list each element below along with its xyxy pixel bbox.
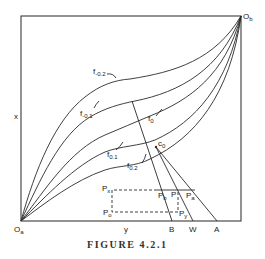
label-A: A — [214, 225, 220, 234]
origin-Oa: Oa — [14, 225, 24, 235]
label-P: P — [171, 190, 176, 199]
leader-f-minus-0.1 — [94, 101, 99, 108]
figure-caption: FIGURE 4.2.1 — [87, 239, 168, 250]
leader-f-0.1 — [116, 142, 123, 150]
line-to-W — [156, 147, 193, 221]
label-f-0.1: f0.1 — [107, 150, 118, 160]
axis-label-x: x — [14, 112, 18, 121]
label-f-minus-0.1: f-0.1 — [80, 109, 93, 119]
origin-Ob: Ob — [243, 12, 253, 22]
edgeworth-box-diagram: f-0.2 f-0.1 f0 f0.1 f0.2 c0 Px Po Pb P P… — [0, 0, 265, 259]
label-Pb: Pb — [158, 191, 167, 201]
label-f-minus-0.2: f-0.2 — [93, 67, 106, 77]
c0-point — [155, 146, 157, 148]
label-Px: Px — [102, 184, 110, 194]
label-Po: Po — [103, 208, 112, 218]
label-f-0.2: f0.2 — [127, 161, 138, 171]
axis-label-y: y — [124, 225, 128, 234]
leader-f-0 — [156, 109, 162, 116]
label-B: B — [169, 225, 174, 234]
label-W: W — [189, 225, 197, 234]
line-to-A — [156, 147, 217, 221]
leader-f-minus-0.2 — [107, 74, 116, 78]
label-Py: Py — [179, 209, 187, 219]
label-c0: c0 — [158, 139, 166, 149]
